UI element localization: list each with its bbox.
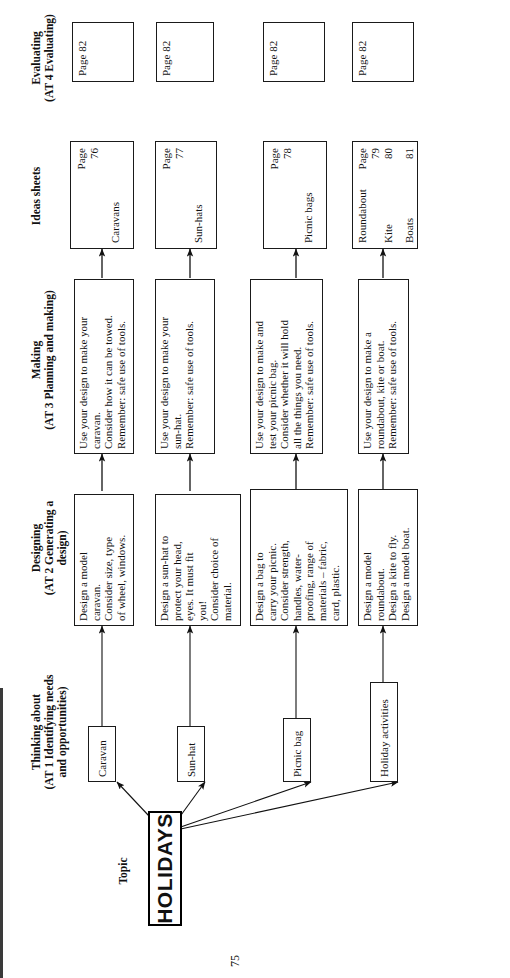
designing-picnic-bag-line-7: card, plastic. xyxy=(329,494,342,621)
topic-box-holidays[interactable]: HOLIDAYS xyxy=(148,811,182,926)
making-caravan-line-3: Consider how it can be towed. xyxy=(102,284,115,449)
ideas-sheet-boats-label: Boats xyxy=(403,218,416,243)
making-node-picnic-bag[interactable]: Use your design to make and test your pi… xyxy=(250,279,323,454)
making-node-sun-hat[interactable]: Use your design to make your sun-hat. Re… xyxy=(155,279,215,454)
evaluating-node-caravan-label: Page 82 xyxy=(76,41,88,76)
thinking-node-picnic-bag-label: Picnic bag xyxy=(291,731,304,777)
ideas-sheet-sun-hats-page-word: Page xyxy=(160,148,173,169)
designing-sun-hat-line-4: you! xyxy=(196,499,209,621)
ideas-sheet-picnic-bags[interactable]: Picnic bags Page 78 xyxy=(263,141,327,249)
ideas-sheet-roundabout-label: Roundabout xyxy=(356,189,369,243)
evaluating-node-holiday-activities-label: Page 82 xyxy=(356,41,368,76)
diagram-stage: Topic Thinking about (AT 1 Identifying n… xyxy=(0,0,510,978)
making-holiday-line-1: Use your design to make a xyxy=(361,284,374,449)
ideas-sheet-sun-hats-page-number: 77 xyxy=(173,148,186,159)
ideas-sheet-sun-hats-label: Sun-hats xyxy=(192,205,205,244)
ideas-sheet-caravans[interactable]: Caravans Page 76 xyxy=(70,141,134,249)
designing-sun-hat-line-5: Consider choice of xyxy=(208,499,221,621)
thinking-node-sun-hat[interactable]: Sun-hat xyxy=(177,726,205,782)
evaluating-node-picnic-bag[interactable]: Page 82 xyxy=(263,22,325,82)
making-picnic-bag-line-3: Consider whether it will hold xyxy=(278,284,291,449)
making-caravan-line-2: caravan. xyxy=(90,284,103,449)
evaluating-node-sun-hat-label: Page 82 xyxy=(160,41,172,76)
designing-holiday-line-3: Design a kite to fly. xyxy=(386,494,399,621)
designing-picnic-bag-line-2: carry your picnic. xyxy=(266,494,279,621)
ideas-sheet-holiday-page-word: Page xyxy=(356,148,369,169)
ideas-sheet-kite-label: Kite xyxy=(382,224,395,243)
thinking-node-caravan-label: Caravan xyxy=(96,740,109,777)
ideas-sheet-caravans-page-number: 76 xyxy=(88,148,101,159)
designing-caravan-line-1: Design a model xyxy=(77,499,90,621)
making-holiday-line-2: roundabout, kite or boat. xyxy=(374,284,387,449)
designing-caravan-line-2: caravan. xyxy=(90,499,103,621)
designing-picnic-bag-line-3: Consider strength, xyxy=(278,494,291,621)
thinking-node-holiday-activities-label: Holiday activities xyxy=(378,699,391,777)
making-caravan-line-4: Remember: safe use of tools. xyxy=(115,284,128,449)
thinking-node-holiday-activities[interactable]: Holiday activities xyxy=(370,682,398,782)
designing-node-caravan[interactable]: Design a model caravan. Consider size, t… xyxy=(74,494,134,626)
thinking-node-sun-hat-label: Sun-hat xyxy=(185,743,198,777)
designing-picnic-bag-line-4: handles, water- xyxy=(291,494,304,621)
making-sun-hat-line-1: Use your design to make your xyxy=(158,284,171,449)
making-picnic-bag-line-2: test your picnic bag. xyxy=(266,284,279,449)
evaluating-node-picnic-bag-label: Page 82 xyxy=(267,41,279,76)
ideas-sheet-caravans-label: Caravans xyxy=(109,202,122,243)
page-number: 75 xyxy=(228,955,243,967)
making-holiday-line-3: Remember: safe use of tools. xyxy=(386,284,399,449)
making-picnic-bag-line-5: Remember: safe use of tools. xyxy=(303,284,316,449)
designing-holiday-line-2: roundabout. xyxy=(374,494,387,621)
making-node-caravan[interactable]: Use your design to make your caravan. Co… xyxy=(74,279,134,454)
ideas-sheet-roundabout-page-number: 79 xyxy=(369,148,382,159)
ideas-sheet-caravans-page-word: Page xyxy=(75,148,88,169)
ideas-sheet-picnic-bags-page-number: 78 xyxy=(281,148,294,159)
ideas-sheet-holiday-activities[interactable]: Roundabout Page 79 Kite 80 Boats 81 xyxy=(352,141,418,249)
designing-sun-hat-line-3: eyes. It must fit xyxy=(183,499,196,621)
thinking-node-caravan[interactable]: Caravan xyxy=(88,726,116,782)
ideas-sheet-sun-hats[interactable]: Sun-hats Page 77 xyxy=(155,141,217,249)
designing-node-picnic-bag[interactable]: Design a bag to carry your picnic. Consi… xyxy=(250,489,348,626)
designing-node-holiday-activities[interactable]: Design a model roundabout. Design a kite… xyxy=(358,489,418,626)
designing-picnic-bag-line-1: Design a bag to xyxy=(253,494,266,621)
designing-holiday-line-1: Design a model xyxy=(361,494,374,621)
ideas-sheet-picnic-bags-label: Picnic bags xyxy=(302,193,315,243)
making-node-holiday-activities[interactable]: Use your design to make a roundabout, ki… xyxy=(358,279,409,454)
ideas-sheet-picnic-bags-page-word: Page xyxy=(268,148,281,169)
designing-sun-hat-line-6: material. xyxy=(221,499,234,621)
designing-node-sun-hat[interactable]: Design a sun-hat to protect your head, e… xyxy=(155,494,241,626)
designing-caravan-line-3: Consider size, type xyxy=(102,499,115,621)
ideas-sheet-kite-page-number: 80 xyxy=(382,148,395,159)
designing-sun-hat-line-2: protect your head, xyxy=(171,499,184,621)
evaluating-node-sun-hat[interactable]: Page 82 xyxy=(156,22,214,82)
making-sun-hat-line-3: Remember: safe use of tools. xyxy=(183,284,196,449)
thinking-node-picnic-bag[interactable]: Picnic bag xyxy=(283,718,311,782)
designing-caravan-line-4: of wheel, windows. xyxy=(115,499,128,621)
designing-holiday-line-4: Design a model boat. xyxy=(399,494,412,621)
ideas-sheet-boats-page-number: 81 xyxy=(403,148,416,159)
making-picnic-bag-line-1: Use your design to make and xyxy=(253,284,266,449)
making-sun-hat-line-2: sun-hat. xyxy=(171,284,184,449)
designing-picnic-bag-line-5: proofing, range of xyxy=(303,494,316,621)
making-caravan-line-1: Use your design to make your xyxy=(77,284,90,449)
making-picnic-bag-line-4: all the things you need. xyxy=(291,284,304,449)
evaluating-node-caravan[interactable]: Page 82 xyxy=(72,22,134,82)
topic-label: HOLIDAYS xyxy=(153,813,177,924)
designing-sun-hat-line-1: Design a sun-hat to xyxy=(158,499,171,621)
designing-picnic-bag-line-6: materials – fabric, xyxy=(316,494,329,621)
evaluating-node-holiday-activities[interactable]: Page 82 xyxy=(352,22,414,82)
